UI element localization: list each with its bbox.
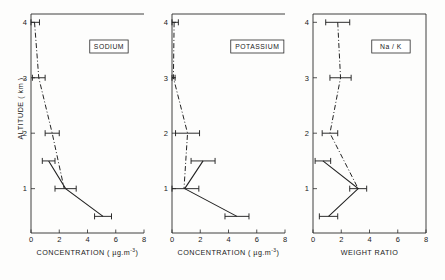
error-bar: [172, 19, 178, 25]
error-bar: [31, 19, 39, 25]
error-bar: [172, 186, 199, 192]
x-tick-label: 0: [29, 235, 33, 244]
series-line-profile-dash-dot: [173, 22, 187, 188]
y-tick-label: 1: [305, 184, 309, 193]
x-tick-label: 2: [339, 235, 343, 244]
y-tick-label: 3: [164, 74, 168, 83]
x-tick-label: 6: [114, 235, 118, 244]
error-bar: [350, 186, 367, 192]
y-tick-label: 1: [164, 184, 168, 193]
x-tick-label: 6: [255, 235, 259, 244]
error-bar: [95, 213, 112, 219]
x-tick-label: 8: [142, 235, 146, 244]
x-tick-label: 2: [198, 235, 202, 244]
panel-na-k: 024681234WEIGHT RATIONa / K: [305, 14, 428, 257]
x-axis-title-tail: ): [277, 248, 280, 257]
y-tick-label: 2: [164, 129, 168, 138]
panel-tag-label: POTASSIUM: [235, 43, 279, 50]
error-bar: [315, 158, 331, 164]
error-bar: [42, 158, 55, 164]
x-tick-label: 4: [367, 235, 371, 244]
x-tick-label: 0: [311, 235, 315, 244]
y-tick-label: 3: [305, 74, 309, 83]
figure-root: 024681234CONCENTRATION ( µg.m-3)SODIUM02…: [0, 0, 445, 280]
error-bar: [319, 213, 337, 219]
panel-tag-label: Na / K: [380, 43, 402, 50]
x-tick-label: 2: [57, 235, 61, 244]
panel-potassium: 024681234CONCENTRATION ( µg.m-3)POTASSIU…: [164, 14, 287, 257]
y-tick-label: 4: [164, 18, 168, 27]
x-axis-title: WEIGHT RATIO: [341, 248, 398, 257]
x-tick-label: 8: [424, 235, 428, 244]
x-axis-title: CONCENTRATION ( µg.m-3): [178, 247, 280, 257]
error-bar: [322, 130, 338, 136]
x-tick-label: 4: [85, 235, 89, 244]
y-tick-label: 2: [305, 129, 309, 138]
y-axis-title: ALTITUDE ( km ): [16, 63, 25, 155]
x-tick-label: 4: [226, 235, 230, 244]
x-tick-label: 8: [283, 235, 287, 244]
series-line-profile-dash-dot: [330, 22, 358, 188]
panel-sodium: 024681234CONCENTRATION ( µg.m-3)SODIUM: [23, 14, 146, 257]
y-tick-label: 1: [23, 184, 27, 193]
x-tick-label: 0: [170, 235, 174, 244]
vertical-profile-figure: 024681234CONCENTRATION ( µg.m-3)SODIUM02…: [0, 0, 445, 280]
x-tick-label: 6: [396, 235, 400, 244]
series-line-profile-dash-dot: [35, 22, 65, 188]
error-bar: [225, 213, 249, 219]
y-tick-label: 4: [305, 18, 309, 27]
x-axis-title-tail: ): [136, 248, 139, 257]
x-axis-title: CONCENTRATION ( µg.m-3): [37, 247, 139, 257]
error-bar: [55, 186, 76, 192]
y-tick-label: 4: [23, 18, 27, 27]
error-bar: [191, 158, 215, 164]
panel-tag-label: SODIUM: [94, 43, 124, 50]
